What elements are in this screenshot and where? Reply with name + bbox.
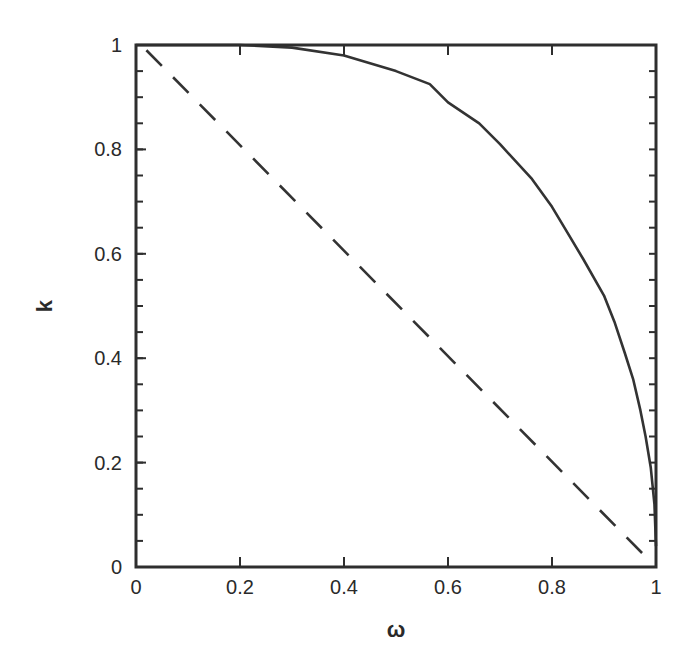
series-dashed-line	[146, 50, 645, 556]
y-tick-label: 0.8	[94, 138, 122, 160]
x-tick-label: 0.8	[538, 576, 566, 598]
y-tick-label: 0	[111, 556, 122, 578]
x-tick-label: 0.4	[330, 576, 358, 598]
y-axis-label: k	[32, 299, 57, 312]
x-tick-label: 0.6	[434, 576, 462, 598]
series-layer	[136, 45, 656, 557]
y-tick-label: 0.6	[94, 243, 122, 265]
y-tick-label: 0.2	[94, 452, 122, 474]
x-tick-label: 0.2	[226, 576, 254, 598]
x-tick-label: 1	[650, 576, 661, 598]
x-axis-label: ω	[387, 617, 406, 642]
y-tick-label: 1	[111, 34, 122, 56]
y-tick-label: 0.4	[94, 347, 122, 369]
x-tick-label: 0	[130, 576, 141, 598]
labels-layer: 00.20.40.60.8100.20.40.60.81	[94, 34, 661, 598]
chart: 00.20.40.60.8100.20.40.60.81 ω k	[0, 0, 687, 664]
